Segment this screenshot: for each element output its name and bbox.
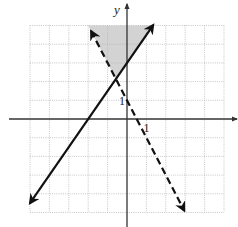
graph: y 11 bbox=[0, 0, 238, 227]
y-axis-label: y bbox=[112, 2, 120, 17]
dashed-boundary-line bbox=[91, 31, 184, 211]
x-tick-label: 1 bbox=[143, 121, 149, 135]
y-tick-label: 1 bbox=[119, 94, 125, 108]
